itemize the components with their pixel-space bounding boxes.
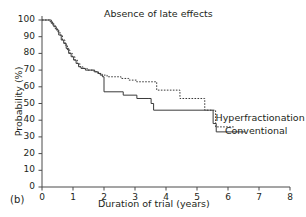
y-tick-label: 20 xyxy=(13,148,35,158)
x-tick-label: 4 xyxy=(159,192,173,202)
y-tick-label: 30 xyxy=(13,131,35,141)
x-tick-label: 5 xyxy=(190,192,204,202)
x-tick-label: 6 xyxy=(221,192,235,202)
x-tick-label: 3 xyxy=(128,192,142,202)
y-tick-label: 60 xyxy=(13,81,35,91)
y-tick-label: 40 xyxy=(13,114,35,124)
y-tick-label: 10 xyxy=(13,164,35,174)
x-tick-label: 7 xyxy=(252,192,266,202)
y-tick-label: 0 xyxy=(13,181,35,191)
y-tick-label: 50 xyxy=(13,98,35,108)
y-tick-label: 70 xyxy=(13,64,35,74)
x-tick-label: 2 xyxy=(97,192,111,202)
plot-area xyxy=(0,0,306,217)
figure-panel: Absence of late effects Probability (%) … xyxy=(0,0,306,217)
x-tick-label: 8 xyxy=(283,192,297,202)
series-line-1 xyxy=(42,20,234,127)
x-tick-label: 0 xyxy=(35,192,49,202)
y-tick-label: 100 xyxy=(13,14,35,24)
x-tick-label: 1 xyxy=(66,192,80,202)
series-line-2 xyxy=(42,20,245,132)
series-label-1: Hyperfractionation xyxy=(216,112,305,123)
y-tick-label: 80 xyxy=(13,47,35,57)
series-label-2: Conventional xyxy=(225,125,288,136)
y-tick-label: 90 xyxy=(13,31,35,41)
